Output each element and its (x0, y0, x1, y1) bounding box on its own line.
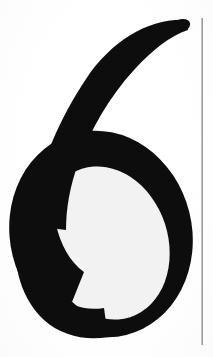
scanned-page: 6 (0, 0, 213, 357)
vertical-ruled-line (0, 0, 213, 357)
